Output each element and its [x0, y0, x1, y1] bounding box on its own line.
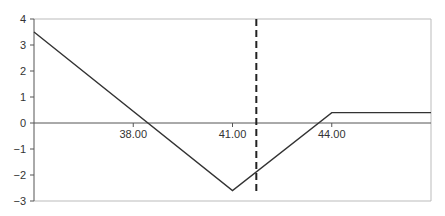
- y-tick-label: 0: [20, 117, 26, 129]
- y-tick-label: −3: [13, 195, 26, 207]
- y-tick-label: 2: [20, 65, 26, 77]
- x-tick-label: 38.00: [119, 128, 147, 140]
- x-tick-label: 41.00: [219, 128, 247, 140]
- x-axis: 38.0041.0044.00: [34, 123, 431, 140]
- chart-canvas: 43210−1−2−3 38.0041.0044.00: [0, 0, 445, 216]
- y-axis: 43210−1−2−3: [13, 13, 34, 207]
- payoff-line: [34, 32, 431, 191]
- plot-frame: [34, 19, 431, 201]
- payoff-chart: 43210−1−2−3 38.0041.0044.00: [0, 0, 445, 216]
- y-tick-label: 4: [20, 13, 26, 25]
- series-layer: [34, 32, 431, 191]
- y-tick-label: 3: [20, 39, 26, 51]
- x-tick-label: 44.00: [318, 128, 346, 140]
- y-tick-label: 1: [20, 91, 26, 103]
- y-tick-label: −2: [13, 169, 26, 181]
- y-tick-label: −1: [13, 143, 26, 155]
